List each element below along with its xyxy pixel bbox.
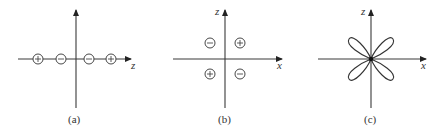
axis-label-x: x (276, 59, 282, 71)
plus-lobe (33, 54, 43, 64)
minus-lobe (235, 69, 245, 79)
axis-label-x: x (420, 59, 426, 71)
panel-c: x z (c) (318, 5, 426, 126)
plus-lobe (235, 38, 245, 48)
panel-a: z (a) (18, 10, 136, 126)
panel-b: x z (b) (173, 5, 282, 126)
caption-c: (c) (364, 113, 377, 126)
caption-b: (b) (218, 113, 231, 126)
caption-a: (a) (68, 113, 81, 126)
minus-lobe (56, 54, 66, 64)
plus-lobe (106, 54, 116, 64)
axis-label-z: z (130, 59, 136, 71)
axis-label-z: z (360, 5, 366, 17)
plus-lobe (205, 69, 215, 79)
minus-lobe (205, 38, 215, 48)
axis-label-z: z (214, 5, 220, 17)
minus-lobe (84, 54, 94, 64)
